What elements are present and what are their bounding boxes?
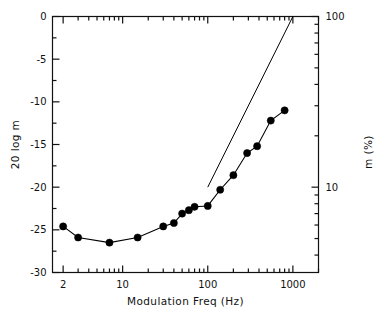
- y-axis-left-ticklabel: -20: [30, 182, 46, 193]
- data-point: [204, 202, 211, 209]
- data-point: [75, 234, 82, 241]
- data-point: [106, 239, 113, 246]
- figure-container: -30-25-20-15-10-50 10100 2101001000 Modu…: [0, 0, 388, 315]
- data-point: [60, 223, 67, 230]
- y-axis-right-ticklabel: 100: [326, 11, 345, 22]
- y-axis-left-ticklabel: -25: [30, 224, 46, 235]
- data-point: [160, 223, 167, 230]
- data-point: [170, 219, 177, 226]
- x-axis-ticklabel: 2: [60, 279, 66, 290]
- data-point: [254, 143, 261, 150]
- modulation-transfer-function-chart: -30-25-20-15-10-50 10100 2101001000 Modu…: [0, 0, 388, 315]
- data-point: [217, 186, 224, 193]
- data-point: [267, 117, 274, 124]
- y-axis-right-ticklabel: 10: [326, 182, 339, 193]
- data-point: [191, 203, 198, 210]
- data-point: [134, 234, 141, 241]
- y-axis-right-title: m (%): [362, 135, 374, 169]
- y-axis-left-ticklabel: -30: [30, 267, 46, 278]
- y-axis-left-title: 20 log m: [9, 120, 21, 169]
- x-axis-ticklabel: 100: [198, 279, 217, 290]
- y-axis-left-ticklabel: -15: [30, 139, 46, 150]
- x-axis-ticklabel: 1000: [280, 279, 305, 290]
- x-axis-ticklabel: 10: [116, 279, 129, 290]
- data-point: [244, 149, 251, 156]
- y-axis-left-ticklabel: -5: [37, 54, 47, 65]
- y-axis-left-ticklabel: -10: [30, 96, 46, 107]
- x-axis-title: Modulation Freq (Hz): [127, 295, 244, 307]
- data-point: [230, 172, 237, 179]
- y-axis-left-ticklabel: 0: [40, 11, 46, 22]
- chart-background: [0, 0, 388, 315]
- data-point: [179, 210, 186, 217]
- data-point: [281, 107, 288, 114]
